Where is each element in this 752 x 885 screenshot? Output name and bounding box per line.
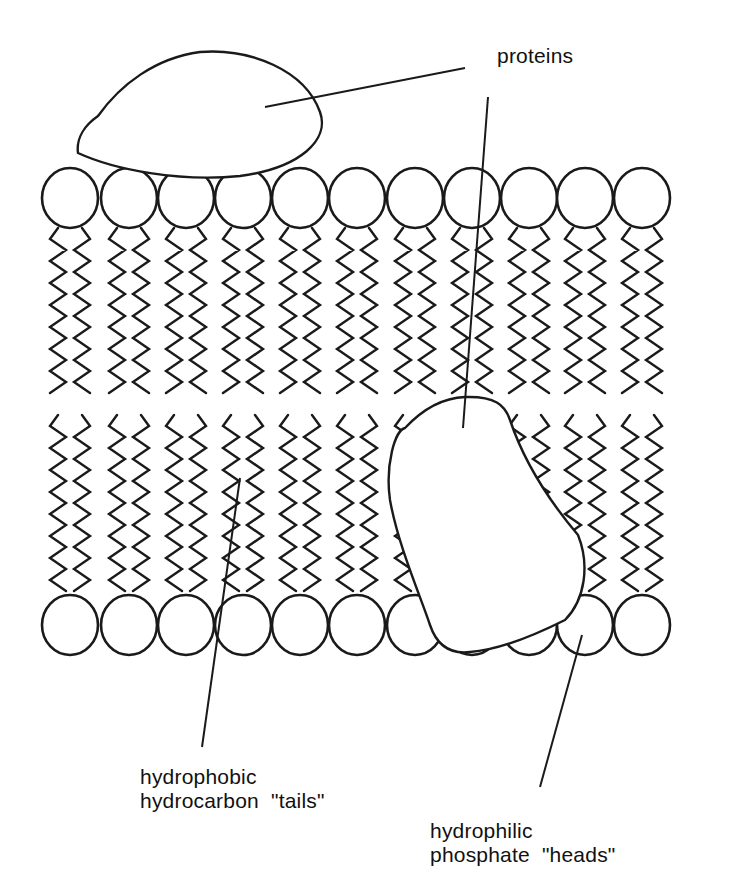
hydrocarbon-tail — [166, 228, 182, 393]
hydrocarbon-tail — [74, 415, 90, 591]
hydrocarbon-tail — [133, 228, 149, 393]
hydrocarbon-tail — [190, 228, 206, 393]
hydrocarbon-tail — [452, 228, 468, 393]
hydrocarbon-tail — [622, 415, 638, 591]
hydrocarbon-tail — [589, 228, 605, 393]
hydrocarbon-tail — [133, 415, 149, 591]
hydrocarbon-tail — [304, 415, 320, 591]
phosphate-head — [101, 595, 157, 655]
hydrocarbon-tail — [247, 228, 263, 393]
tails-label-line2: hydrocarbon "tails" — [140, 789, 325, 813]
hydrocarbon-tail — [361, 228, 377, 393]
proteins-leader-to-integral — [463, 97, 488, 428]
hydrocarbon-tail — [476, 228, 492, 393]
hydrocarbon-tail — [589, 415, 605, 591]
hydrocarbon-tail — [533, 228, 549, 393]
hydrocarbon-tail — [509, 228, 525, 393]
phosphate-head — [557, 168, 613, 228]
proteins-label: proteins — [497, 44, 573, 68]
phosphate-head — [101, 168, 157, 228]
heads-leader — [540, 635, 582, 787]
hydrocarbon-tail — [304, 228, 320, 393]
phosphate-head — [272, 595, 328, 655]
hydrocarbon-tail — [646, 228, 662, 393]
tails-label-line1: hydrophobic — [140, 765, 257, 789]
hydrocarbon-tail — [247, 415, 263, 591]
hydrocarbon-tail — [50, 228, 66, 393]
hydrocarbon-tail — [565, 228, 581, 393]
hydrocarbon-tail — [74, 228, 90, 393]
hydrocarbon-tail — [361, 415, 377, 591]
phosphate-head — [444, 168, 500, 228]
peripheral-protein — [78, 52, 322, 178]
hydrocarbon-tail — [109, 415, 125, 591]
phosphate-heads-outer-leaflet — [42, 168, 670, 228]
phosphate-head — [158, 595, 214, 655]
hydrocarbon-tails-outer-leaflet — [50, 228, 662, 393]
phosphate-head — [329, 168, 385, 228]
phosphate-head — [329, 595, 385, 655]
phosphate-head — [501, 168, 557, 228]
hydrocarbon-tail — [622, 228, 638, 393]
hydrocarbon-tail — [337, 415, 353, 591]
hydrocarbon-tail — [646, 415, 662, 591]
phosphate-head — [272, 168, 328, 228]
heads-label-line2: phosphate "heads" — [430, 843, 615, 867]
hydrocarbon-tail — [280, 228, 296, 393]
hydrocarbon-tail — [280, 415, 296, 591]
hydrocarbon-tail — [223, 228, 239, 393]
phosphate-head — [42, 595, 98, 655]
phosphate-head — [387, 168, 443, 228]
phosphate-head — [614, 595, 670, 655]
hydrocarbon-tail — [395, 228, 411, 393]
hydrocarbon-tail — [50, 415, 66, 591]
phosphate-head — [42, 168, 98, 228]
hydrocarbon-tail — [419, 228, 435, 393]
phosphate-head — [215, 595, 271, 655]
hydrocarbon-tail — [337, 228, 353, 393]
hydrocarbon-tail — [190, 415, 206, 591]
phosphate-head — [614, 168, 670, 228]
hydrocarbon-tail — [166, 415, 182, 591]
cell-membrane-diagram — [0, 0, 752, 885]
hydrocarbon-tail — [109, 228, 125, 393]
heads-label-line1: hydrophilic — [430, 819, 533, 843]
